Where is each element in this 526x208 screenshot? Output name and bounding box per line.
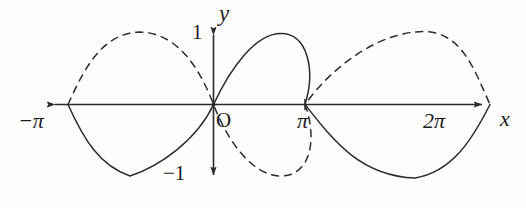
- y-tick-label-negative-one: −1: [163, 163, 185, 184]
- x-tick-label-two-pi: 2π: [423, 110, 445, 132]
- x-axis-label: x: [500, 108, 510, 130]
- sine-wave-figure: y x 1 −1 O −π π 2π: [0, 0, 526, 208]
- y-tick-label-one: 1: [192, 22, 203, 43]
- plot-canvas: [0, 0, 526, 208]
- x-tick-label-negative-pi: −π: [18, 110, 44, 132]
- solid-sine-curve: [68, 34, 490, 179]
- origin-label: O: [216, 110, 231, 131]
- y-axis-label: y: [219, 2, 229, 25]
- x-tick-label-pi: π: [297, 110, 308, 132]
